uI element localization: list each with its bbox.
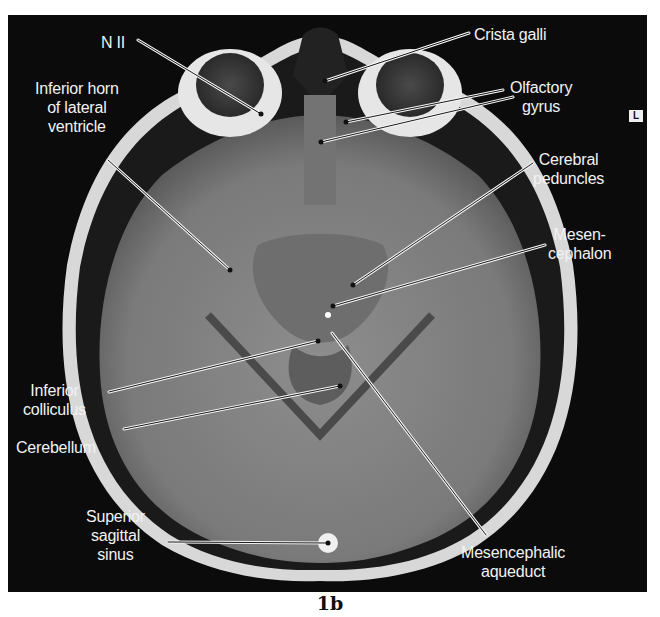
mri-image-panel: N II Crista galli Inferior horn of later… <box>8 15 647 592</box>
orientation-marker-left: L <box>629 110 643 122</box>
label-inferior-horn-of-lateral-ventricle: Inferior horn of lateral ventricle <box>35 79 119 136</box>
figure-caption: 1b <box>0 592 660 614</box>
label-n-ii: N II <box>101 33 125 52</box>
label-cerebellum: Cerebellum <box>16 438 96 457</box>
label-mesencephalon: Mesen- cephalon <box>548 225 611 263</box>
right-eye <box>376 53 444 117</box>
label-cerebral-peduncles: Cerebral peduncles <box>533 150 604 188</box>
label-crista-galli: Crista galli <box>474 25 546 44</box>
label-olfactory-gyrus: Olfactory gyrus <box>510 78 572 116</box>
label-superior-sagittal-sinus: Superior sagittal sinus <box>86 507 145 564</box>
label-mesencephalic-aqueduct: Mesencephalic aqueduct <box>461 543 565 581</box>
label-inferior-colliculus: Inferior colliculus <box>23 381 86 419</box>
left-eye <box>196 53 264 117</box>
